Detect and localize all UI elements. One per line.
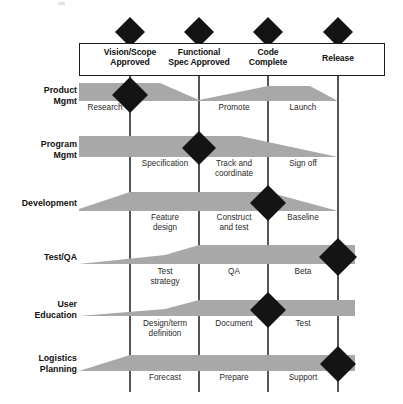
task-label-development-construct-and-test: Constructand test xyxy=(203,213,265,234)
process-milestone-diagram: Vision/Scope Approved Functional Spec Ap… xyxy=(0,0,403,404)
milestone-label-release: Release xyxy=(291,53,385,63)
activity-band-test-qa xyxy=(79,245,355,264)
row-label-program-mgmt: Program Mgmt xyxy=(0,139,77,161)
task-label-test-qa-beta: Beta xyxy=(272,267,334,277)
task-label-development-baseline: Baseline xyxy=(272,213,334,223)
task-label-development-feature-design: Featuredesign xyxy=(134,213,196,234)
activity-band-user-education xyxy=(79,300,355,316)
task-label-product-mgmt-promote: Promote xyxy=(203,103,265,113)
row-label-test-qa: Test/QA xyxy=(0,252,77,263)
task-label-program-mgmt-sign-off: Sign off xyxy=(272,159,334,169)
task-label-logistics-planning-support: Support xyxy=(272,373,334,383)
task-label-product-mgmt-launch: Launch xyxy=(272,103,334,113)
row-label-product-mgmt: Product Mgmt xyxy=(0,85,77,107)
task-label-test-qa-qa: QA xyxy=(203,267,265,277)
row-label-user-education: User Education xyxy=(0,299,77,321)
task-label-program-mgmt-track-and-coordinate: Track andcoordinate xyxy=(203,159,265,180)
activity-band-development xyxy=(79,192,338,211)
task-label-test-qa-test-strategy: Teststrategy xyxy=(134,267,196,288)
activity-band-logistics-planning xyxy=(79,355,355,371)
row-label-logistics-planning: Logistics Planning xyxy=(0,353,77,375)
task-label-user-education-test: Test xyxy=(272,319,334,329)
task-label-user-education-document: Document xyxy=(203,319,265,329)
task-label-logistics-planning-forecast: Forecast xyxy=(134,373,196,383)
task-label-product-mgmt-research: Research xyxy=(82,103,128,113)
milestone-vertical-lines xyxy=(130,76,338,392)
scan-artifact xyxy=(58,2,65,5)
task-label-logistics-planning-prepare: Prepare xyxy=(203,373,265,383)
row-label-development: Development xyxy=(0,198,77,209)
task-label-user-education-design-term-definition: Design/termdefinition xyxy=(134,319,196,340)
task-label-program-mgmt-specification: Specification xyxy=(134,159,196,169)
